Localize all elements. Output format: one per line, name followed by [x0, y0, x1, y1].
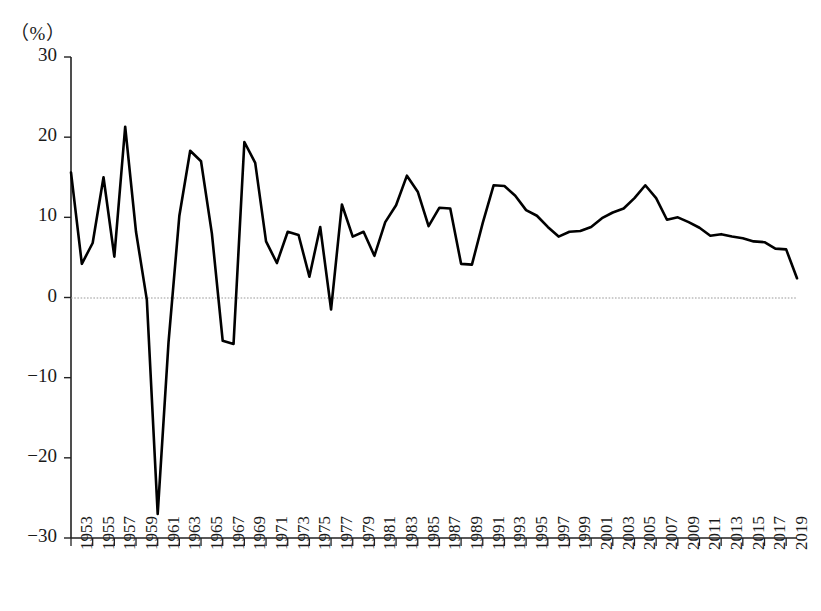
- x-tick-label: 2015: [749, 516, 769, 550]
- x-tick-label: 1971: [272, 516, 292, 550]
- economic-growth-rate-line-chart: （%） 3020100−10−20−30 1953195519571959196…: [0, 0, 821, 611]
- x-tick-label: 1989: [467, 516, 487, 550]
- x-tick-label: 1979: [359, 516, 379, 550]
- x-tick-label: 1973: [294, 516, 314, 550]
- x-tick-label: 1985: [424, 516, 444, 550]
- y-tick-label: −20: [0, 445, 57, 467]
- x-tick-label: 2003: [619, 516, 639, 550]
- x-tick-label: 1983: [402, 516, 422, 550]
- x-tick-label: 1953: [77, 516, 97, 550]
- data-series-line: [71, 127, 797, 514]
- y-tick-label: 30: [0, 44, 57, 66]
- x-tick-label: 1987: [445, 516, 465, 550]
- x-tick-label: 1997: [554, 516, 574, 550]
- x-tick-label: 1975: [315, 516, 335, 550]
- x-tick-label: 1965: [207, 516, 227, 550]
- x-tick-label: 2009: [684, 516, 704, 550]
- x-tick-label: 1957: [120, 516, 140, 550]
- x-tick-label: 1981: [380, 516, 400, 550]
- x-tick-label: 2013: [727, 516, 747, 550]
- y-tick-label: 10: [0, 204, 57, 226]
- y-tick-label: 0: [0, 285, 57, 307]
- y-tick-label: −30: [0, 525, 57, 547]
- x-tick-label: 2019: [792, 516, 812, 550]
- x-tick-label: 1995: [532, 516, 552, 550]
- y-tick-marks: [64, 57, 71, 538]
- x-tick-label: 1963: [185, 516, 205, 550]
- x-tick-label: 1993: [510, 516, 530, 550]
- x-tick-label: 2011: [705, 517, 725, 550]
- y-tick-label: 20: [0, 124, 57, 146]
- x-tick-label: 2005: [640, 516, 660, 550]
- x-tick-label: 1961: [164, 516, 184, 550]
- x-tick-label: 1955: [99, 516, 119, 550]
- x-tick-label: 1959: [142, 516, 162, 550]
- x-tick-label: 1967: [229, 516, 249, 550]
- x-tick-label: 1969: [250, 516, 270, 550]
- x-tick-label: 1999: [575, 516, 595, 550]
- x-tick-label: 2017: [770, 516, 790, 550]
- y-tick-label: −10: [0, 365, 57, 387]
- x-tick-label: 1991: [489, 516, 509, 550]
- x-tick-label: 1977: [337, 516, 357, 550]
- x-tick-label: 2007: [662, 516, 682, 550]
- x-tick-label: 2001: [597, 516, 617, 550]
